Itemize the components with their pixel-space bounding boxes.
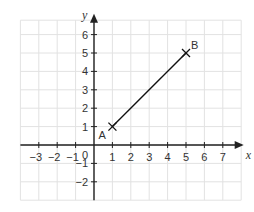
x-tick-label: 5	[183, 151, 189, 163]
grid-lines	[20, 20, 241, 200]
coordinate-grid-chart: −3−2−11234567−2−11234560xy AB	[0, 0, 254, 212]
x-tick-label: 3	[146, 151, 152, 163]
x-tick-label: 7	[220, 151, 226, 163]
y-tick-label: 2	[82, 102, 88, 114]
point-label-a: A	[98, 129, 106, 141]
x-axis-label: x	[245, 148, 252, 162]
y-tick-label: 1	[82, 121, 88, 133]
point-label-b: B	[191, 39, 198, 51]
y-tick-label: 6	[82, 29, 88, 41]
y-axis-label: y	[81, 8, 88, 22]
y-axis-arrow-icon	[90, 14, 98, 23]
y-tick-label: 3	[82, 84, 88, 96]
x-tick-label: 4	[165, 151, 171, 163]
y-tick-label: 4	[82, 65, 88, 77]
x-tick-label: 1	[109, 151, 115, 163]
x-tick-label: 6	[201, 151, 207, 163]
x-axis-arrow-icon	[235, 141, 244, 149]
x-tick-label: 2	[128, 151, 134, 163]
origin-label: 0	[82, 149, 88, 161]
x-tick-label: −2	[48, 151, 61, 163]
y-tick-label: 5	[82, 47, 88, 59]
y-tick-label: −2	[75, 176, 88, 188]
x-tick-label: −3	[30, 151, 43, 163]
